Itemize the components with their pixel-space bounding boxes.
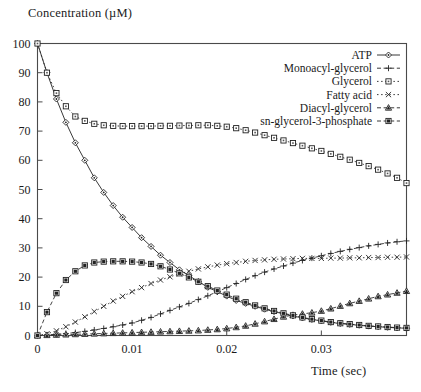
data-point-marker [139,260,144,265]
data-point-marker [110,330,116,336]
data-point-marker [234,126,239,131]
data-point-marker [300,315,305,320]
y-tick-label: 40 [19,212,31,226]
data-point-marker [376,167,381,172]
data-point-marker [130,289,135,294]
data-point-marker [357,160,362,165]
data-point-marker [120,259,125,264]
legend-item-diacyl-glycerol[interactable]: Diacyl-glycerol [300,102,400,115]
data-point-marker [158,264,163,269]
data-point-marker [176,328,182,334]
data-point-marker [261,318,267,324]
data-point-marker [186,300,192,306]
series-monoacyl-glycerol [35,238,410,339]
data-point-marker [92,260,97,265]
data-point-marker [139,317,145,323]
data-point-marker [82,157,88,163]
data-point-marker [347,322,352,327]
data-point-marker [186,123,191,128]
y-tick-label: 0 [25,329,31,343]
data-point-marker [328,151,333,156]
data-point-marker [385,324,390,329]
data-point-marker [262,306,267,311]
legend-item-atp[interactable]: ATP [352,49,400,61]
data-point-marker [252,273,258,279]
data-point-marker [111,298,116,303]
data-point-marker [394,325,399,330]
legend-item-monoacyl-glycerol[interactable]: Monoacyl-glycerol [284,62,400,75]
data-point-marker [82,314,87,319]
data-point-marker [290,313,295,318]
data-point-marker [234,296,239,301]
data-point-marker [53,96,59,102]
chart-legend: ATPMonoacyl-glycerolGlycerolFatty acidDi… [260,49,400,128]
legend-label: Fatty acid [326,89,372,102]
y-tick-label: 50 [19,183,31,197]
data-point-marker [319,318,324,323]
data-point-marker [224,285,230,291]
data-point-marker [404,238,410,244]
data-point-marker [157,329,163,335]
data-point-marker [309,146,314,151]
data-point-marker [130,259,135,264]
data-point-marker [92,121,97,126]
data-point-marker [205,293,211,299]
data-point-marker [148,124,153,129]
data-point-marker [243,128,248,133]
data-point-marker [101,304,106,309]
y-tick-label: 10 [19,299,31,313]
data-point-marker [384,291,390,297]
data-point-marker [54,91,59,96]
data-point-marker [167,307,173,313]
data-point-marker [129,329,135,335]
data-point-marker [309,317,314,322]
data-point-marker [347,246,353,252]
data-point-marker [205,123,210,128]
data-point-marker [338,154,343,159]
data-point-marker [195,327,201,333]
data-point-marker [404,325,409,330]
data-point-marker [205,264,210,269]
data-point-marker [63,331,69,337]
data-point-marker [215,123,220,128]
data-point-marker [63,277,68,282]
data-point-marker [73,114,78,119]
legend-item-fatty-acid[interactable]: Fatty acid [326,89,400,102]
data-point-marker [167,267,172,272]
legend-label: ATP [352,49,372,61]
legend-label: Glycerol [332,75,372,88]
data-point-marker [111,259,116,264]
data-point-marker [243,323,249,329]
y-tick-label: 100 [13,37,31,51]
data-point-marker [347,157,352,162]
data-point-marker [44,310,49,315]
legend-item-glycerol[interactable]: Glycerol [332,75,400,88]
data-point-marker [205,284,210,289]
data-point-marker [385,171,390,176]
data-point-marker [176,304,182,310]
data-point-marker [262,133,267,138]
data-point-marker [101,189,107,195]
data-point-marker [110,324,116,330]
data-point-marker [386,118,391,123]
legend-item-sn-glycerol-3-phosphate[interactable]: sn-glycerol-3-phosphate [260,115,400,128]
data-point-marker [148,314,154,320]
data-point-marker [328,319,333,324]
data-point-marker [129,320,135,326]
data-point-marker [386,79,391,84]
data-point-marker [35,41,40,46]
data-point-marker [262,269,268,275]
data-point-marker [167,123,172,128]
data-point-marker [300,143,305,148]
legend-label: Monoacyl-glycerol [284,62,372,75]
data-point-marker [404,180,409,185]
y-tick-label: 20 [19,270,31,284]
data-point-marker [385,240,391,246]
y-tick-label: 80 [19,95,31,109]
data-point-marker [139,124,144,129]
chart-page: Concentration (µM) Time (sec) 00.010.020… [0,0,421,392]
data-point-marker [35,333,40,338]
data-point-marker [215,288,220,293]
data-point-marker [357,255,362,260]
data-point-marker [195,297,201,303]
